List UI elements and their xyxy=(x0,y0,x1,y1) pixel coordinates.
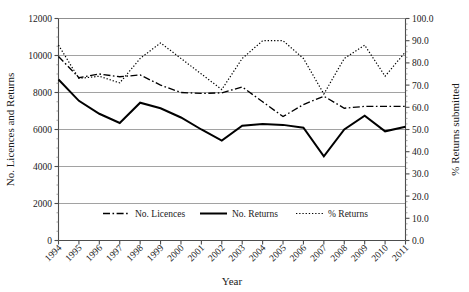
y2-tick-label-90: 90.0 xyxy=(412,36,429,46)
chart-legend: No. LicencesNo. Returns% Returns xyxy=(103,209,368,219)
legend-label-0: No. Licences xyxy=(135,209,185,219)
y-tick-label-2000: 2000 xyxy=(33,199,52,209)
y2-tick-label-40: 40.0 xyxy=(412,147,429,157)
y2-tick-label-10: 10.0 xyxy=(412,214,429,224)
legend-label-1: No. Returns xyxy=(232,209,278,219)
y-tick-label-10000: 10000 xyxy=(28,51,52,61)
y2-tick-label-0: 0.0 xyxy=(412,236,424,246)
y2-tick-label-80: 80.0 xyxy=(412,58,429,68)
y2-tick-label-50: 50.0 xyxy=(412,125,429,135)
y-tick-label-0: 0 xyxy=(47,236,52,246)
y-tick-label-4000: 4000 xyxy=(33,162,52,172)
y2-tick-label-70: 70.0 xyxy=(412,81,429,91)
y2-tick-label-100: 100.0 xyxy=(412,14,434,24)
y2-tick-label-30: 30.0 xyxy=(412,169,429,179)
chart-figure: 020004000600080001000012000 0.010.020.03… xyxy=(0,0,469,292)
y-tick-label-8000: 8000 xyxy=(33,88,52,98)
y2-tick-label-60: 60.0 xyxy=(412,103,429,113)
y2-axis-title: % Returns submitted xyxy=(449,83,461,176)
y-tick-label-6000: 6000 xyxy=(33,125,52,135)
x-axis-title: Year xyxy=(222,275,243,287)
line-chart: 020004000600080001000012000 0.010.020.03… xyxy=(0,0,469,292)
legend-label-2: % Returns xyxy=(328,209,368,219)
y-axis-title: No. Licences and Returns xyxy=(4,73,16,187)
y2-tick-label-20: 20.0 xyxy=(412,192,429,202)
y-tick-label-12000: 12000 xyxy=(28,14,52,24)
